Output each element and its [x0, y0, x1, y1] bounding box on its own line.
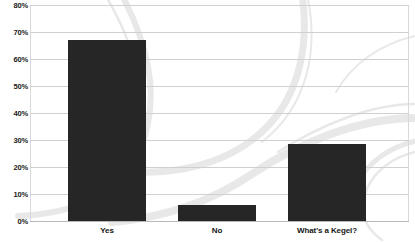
x-axis: Yes No What's a Kegel?: [0, 0, 415, 242]
bar-chart: 80% 70% 60% 50% 40% 30% 20% 10% 0% Yes N…: [0, 0, 415, 242]
x-tick-label-whats-a-kegel: What's a Kegel?: [278, 226, 376, 235]
x-tick-label-yes: Yes: [68, 226, 146, 235]
x-tick-label-no: No: [178, 226, 256, 235]
